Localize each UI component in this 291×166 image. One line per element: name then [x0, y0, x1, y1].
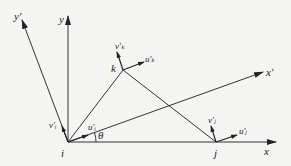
v-i-label: v'ᵢ	[49, 121, 56, 130]
u-k-label: u'ₖ	[145, 55, 155, 64]
node-i-label: i	[61, 148, 64, 159]
local-y-axis	[22, 20, 68, 142]
node-j-label: j	[214, 148, 217, 159]
global-y-label: y	[59, 14, 64, 25]
local-x-label: x'	[266, 67, 273, 78]
u-j-vector	[216, 135, 237, 142]
u-j-label: u'ⱼ	[239, 127, 247, 136]
element-coordinate-diagram: x y x' y' i j k θ u'ᵢ v'ᵢ u'ₖ v'ₖ u'ⱼ v'…	[0, 0, 291, 166]
u-i-label: u'ᵢ	[88, 123, 96, 132]
u-k-vector	[123, 62, 144, 70]
v-k-vector	[117, 52, 123, 70]
v-i-vector	[62, 126, 68, 142]
theta-arc	[95, 133, 97, 142]
local-y-label: y'	[14, 11, 21, 22]
v-k-label: v'ₖ	[115, 42, 125, 51]
global-x-label: x	[264, 146, 269, 157]
edge-kj	[123, 70, 216, 142]
diagram-lines	[0, 0, 291, 166]
node-k-label: k	[111, 63, 116, 74]
v-j-label: v'ⱼ	[208, 116, 216, 125]
theta-label: θ	[98, 130, 103, 141]
